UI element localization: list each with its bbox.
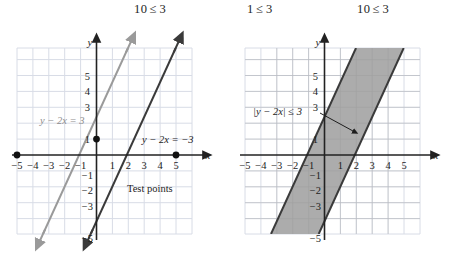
y-tick-a-2: 3: [85, 102, 90, 113]
x-tick-b-5: 1: [338, 160, 343, 171]
line-label-left-a: y − 2x = 3: [39, 115, 85, 126]
expression-2-rhs: 3: [266, 2, 273, 16]
panel-b: x y −5 −4 −3 −2 −1 1 2 3 4 5 5 4 3 1 −1 …: [228, 30, 455, 271]
x-tick-a-5: 1: [110, 160, 115, 171]
x-tick-a-1: −4: [27, 160, 39, 171]
test-point-dot: [14, 152, 21, 159]
y-tick-a-4: −1: [82, 170, 93, 181]
expression-1-lhs: 10: [134, 2, 147, 16]
test-points-label-a: Test points: [127, 183, 173, 194]
line-label-right-a: y − 2x = −3: [141, 134, 194, 145]
x-tick-b-0: −5: [239, 160, 250, 171]
y-tick-a-6: −3: [82, 201, 93, 212]
expression-1: 10≤3: [134, 2, 166, 17]
x-tick-a-2: −3: [43, 160, 54, 171]
y-tick-a-1: 4: [85, 86, 91, 97]
test-point-dot: [93, 136, 100, 143]
expression-3-lhs: 10: [357, 2, 370, 16]
figure-absolute-value-inequality: 10≤3 1≤3 10≤3: [0, 0, 455, 271]
top-expression-row: 10≤3 1≤3 10≤3: [0, 0, 455, 26]
expression-2-relation: ≤: [254, 2, 266, 16]
x-tick-a-7: 3: [142, 160, 147, 171]
expression-3-rhs: 3: [383, 2, 390, 16]
expression-3-relation: ≤: [370, 2, 382, 16]
y-tick-b-3: 1: [313, 134, 318, 145]
x-tick-b-9: 5: [401, 160, 406, 171]
expression-2: 1≤3: [247, 2, 273, 17]
x-tick-b-8: 4: [385, 160, 391, 171]
y-tick-a-7: −5: [82, 233, 93, 244]
y-tick-a-5: −2: [82, 185, 93, 196]
x-tick-a-6: 2: [126, 160, 131, 171]
y-axis-label-b: y: [315, 36, 321, 48]
y-tick-b-2: 3: [313, 102, 318, 113]
x-tick-b-6: 2: [354, 160, 359, 171]
x-axis-label-b: x: [433, 149, 439, 161]
y-tick-b-1: 4: [313, 86, 319, 97]
expression-2-lhs: 1: [247, 2, 254, 16]
y-tick-b-5: −2: [310, 185, 321, 196]
x-tick-a-9: 5: [173, 160, 178, 171]
x-tick-b-3: −2: [287, 160, 298, 171]
annotation-label-b: |y − 2x| ≤ 3: [253, 106, 302, 117]
x-tick-a-0: −5: [11, 160, 22, 171]
x-tick-b-7: 3: [370, 160, 375, 171]
panel-a: x y −5 −4 −3 −2 −1 1 2 3 4 5 5 4 3 1 −1 …: [0, 30, 227, 271]
test-point-dot: [173, 152, 180, 159]
plot-a: x y −5 −4 −3 −2 −1 1 2 3 4 5 5 4 3 1 −1 …: [0, 30, 227, 252]
y-tick-a-0: 5: [85, 71, 90, 82]
x-tick-a-8: 4: [157, 160, 163, 171]
expression-3: 10≤3: [357, 2, 389, 17]
x-tick-a-3: −2: [59, 160, 70, 171]
expression-1-relation: ≤: [147, 2, 159, 16]
y-tick-b-4: −1: [310, 170, 321, 181]
y-tick-b-7: −5: [310, 233, 321, 244]
expression-1-rhs: 3: [160, 2, 167, 16]
y-tick-a-3: 1: [85, 134, 90, 145]
x-tick-b-2: −3: [271, 160, 282, 171]
y-axis-label-a: y: [87, 36, 93, 48]
x-tick-b-1: −4: [255, 160, 267, 171]
y-tick-b-6: −3: [310, 201, 321, 212]
x-axis-label-a: x: [205, 149, 211, 161]
y-tick-b-0: 5: [313, 71, 318, 82]
plot-b: x y −5 −4 −3 −2 −1 1 2 3 4 5 5 4 3 1 −1 …: [228, 30, 455, 252]
